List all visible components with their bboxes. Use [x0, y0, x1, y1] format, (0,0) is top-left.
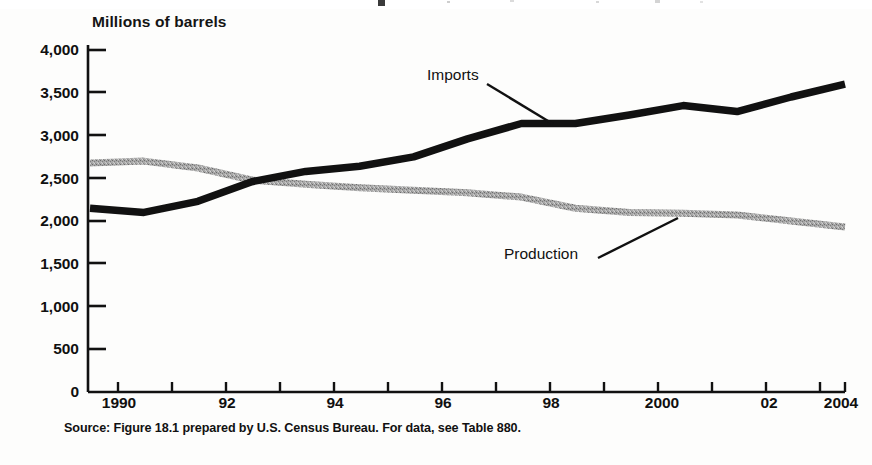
y-axis-ticks: [88, 50, 106, 349]
oil-imports-production-chart: Millions of barrels 4,000 3,500 3,000 2,…: [0, 0, 872, 465]
series-line-production: [90, 161, 845, 227]
x-axis-ticks: [118, 382, 845, 392]
chart-plot-area: [0, 0, 872, 465]
leader-line-imports: [487, 84, 553, 124]
axis-lines: [88, 45, 845, 392]
leader-line-production: [598, 218, 678, 258]
